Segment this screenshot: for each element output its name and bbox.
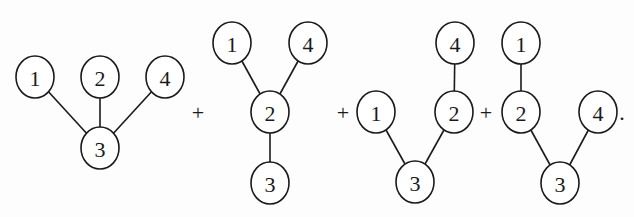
node-label: 2	[449, 101, 460, 126]
node-label: 3	[410, 171, 421, 196]
plus-operator: +	[337, 100, 349, 125]
node-4: 4	[436, 22, 474, 64]
node-label: 4	[303, 32, 314, 57]
diagram-svg: 1243142341231243+++.	[0, 0, 634, 217]
node-2: 2	[502, 91, 540, 133]
node-label: 2	[516, 101, 527, 126]
node-4: 4	[579, 91, 617, 133]
tree-3: 4123	[357, 22, 474, 203]
node-label: 3	[95, 137, 106, 162]
node-1: 1	[16, 56, 54, 98]
tree-4: 1243	[502, 22, 617, 204]
period: .	[619, 100, 625, 125]
node-2: 2	[435, 91, 473, 133]
node-label: 1	[227, 32, 238, 57]
tree-2: 1423	[213, 22, 327, 204]
node-label: 4	[450, 32, 461, 57]
tree-sum-diagram: 1243142341231243+++.	[0, 0, 634, 217]
node-label: 2	[265, 101, 276, 126]
node-label: 1	[371, 101, 382, 126]
node-label: 3	[555, 172, 566, 197]
node-1: 1	[502, 22, 540, 64]
node-label: 1	[30, 66, 41, 91]
node-3: 3	[81, 127, 119, 169]
node-1: 1	[357, 91, 395, 133]
plus-operator: +	[480, 100, 492, 125]
node-label: 3	[265, 172, 276, 197]
node-label: 4	[593, 101, 604, 126]
node-label: 4	[160, 66, 171, 91]
plus-operator: +	[192, 100, 204, 125]
tree-1: 1243	[16, 56, 184, 169]
node-3: 3	[541, 162, 579, 204]
node-label: 2	[95, 66, 106, 91]
node-4: 4	[289, 22, 327, 64]
node-label: 1	[516, 32, 527, 57]
node-2: 2	[81, 56, 119, 98]
node-3: 3	[396, 161, 434, 203]
node-3: 3	[251, 162, 289, 204]
node-4: 4	[146, 56, 184, 98]
node-2: 2	[251, 91, 289, 133]
node-1: 1	[213, 22, 251, 64]
